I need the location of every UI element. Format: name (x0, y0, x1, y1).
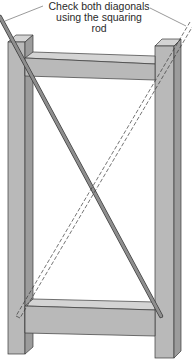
leader-line-left (5, 6, 43, 21)
frame-diagram (0, 0, 192, 362)
bottom-rail (25, 299, 155, 336)
top-rail (25, 52, 155, 80)
annotation-line-3: rod (40, 23, 158, 34)
annotation-label: Check both diagonals using the squaring … (40, 1, 158, 34)
